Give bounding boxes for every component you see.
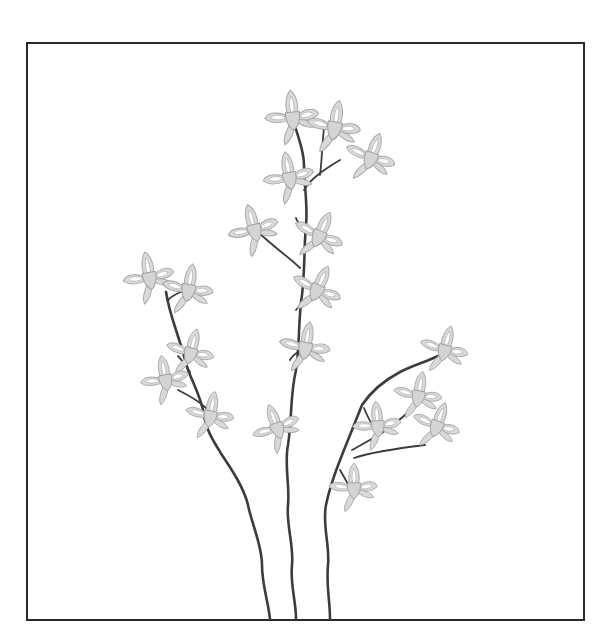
plant-illustration — [0, 0, 610, 639]
